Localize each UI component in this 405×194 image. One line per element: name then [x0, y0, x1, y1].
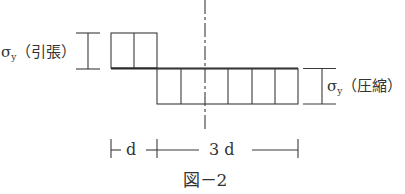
dimension-line: [111, 139, 298, 158]
stress-distribution-diagram: σy（引張） σy（圧縮） d 3 d 図－2: [0, 0, 405, 194]
compression-stress-block: [157, 69, 298, 105]
dimension-3d-label: 3 d: [209, 140, 235, 159]
tension-label: σy（引張）: [1, 43, 76, 62]
dimension-d-label: d: [126, 140, 136, 159]
compression-label: σy（圧縮）: [327, 77, 402, 96]
figure-caption: 図－2: [183, 170, 228, 190]
tension-magnitude-bracket: [76, 33, 100, 69]
tension-stress-block: [111, 33, 157, 68]
